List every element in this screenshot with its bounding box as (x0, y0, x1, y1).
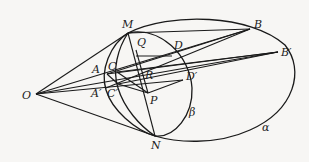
label-P: P (149, 94, 158, 107)
label-M: M (121, 18, 134, 31)
label-beta: β (188, 106, 195, 119)
line-C2-B2 (118, 52, 278, 84)
label-A2: A′ (90, 87, 102, 100)
label-C: C (108, 60, 117, 73)
line-C2-P (118, 84, 148, 93)
label-D2: D′ (185, 70, 198, 83)
label-B: B (253, 18, 262, 31)
label-A: A (91, 63, 100, 76)
label-Q: Q (137, 36, 146, 49)
geometry-diagram: O M N B B′ Q D D′ A A′ C C′ R P β α (0, 0, 309, 162)
line-MB (128, 29, 250, 33)
label-N: N (150, 139, 161, 152)
label-B2: B′ (280, 46, 292, 59)
line-ON (36, 94, 155, 136)
label-alpha: α (262, 121, 270, 134)
label-R: R (144, 69, 153, 82)
label-C2: C′ (107, 87, 118, 100)
label-D: D (173, 39, 183, 52)
label-O: O (22, 89, 31, 102)
